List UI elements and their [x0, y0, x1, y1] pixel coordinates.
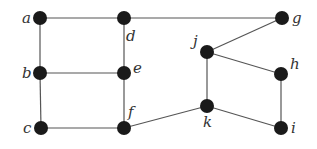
node-label-h: h — [290, 55, 300, 73]
node-label-g: g — [292, 9, 302, 27]
node-label-f: f — [127, 103, 136, 121]
edge-b-c — [40, 73, 41, 128]
node-label-d: d — [126, 27, 136, 45]
node-label-e: e — [133, 59, 142, 77]
node-a — [33, 11, 47, 25]
node-f — [117, 121, 131, 135]
edge-f-k — [124, 106, 207, 128]
node-label-j: j — [190, 32, 198, 50]
node-k — [200, 99, 214, 113]
edge-j-h — [207, 52, 281, 74]
node-c — [34, 121, 48, 135]
node-label-b: b — [22, 64, 32, 82]
node-g — [275, 11, 289, 25]
node-label-i: i — [291, 119, 296, 137]
node-d — [117, 11, 131, 25]
node-h — [274, 67, 288, 81]
edge-k-i — [207, 106, 281, 128]
edge-g-j — [207, 18, 282, 52]
edges-group — [40, 18, 282, 128]
node-b — [33, 66, 47, 80]
graph-diagram: abcdefghijk — [0, 0, 317, 149]
node-e — [117, 66, 131, 80]
node-label-a: a — [22, 9, 31, 27]
node-j — [200, 45, 214, 59]
node-i — [274, 121, 288, 135]
node-label-k: k — [203, 113, 212, 131]
node-label-c: c — [23, 119, 32, 137]
